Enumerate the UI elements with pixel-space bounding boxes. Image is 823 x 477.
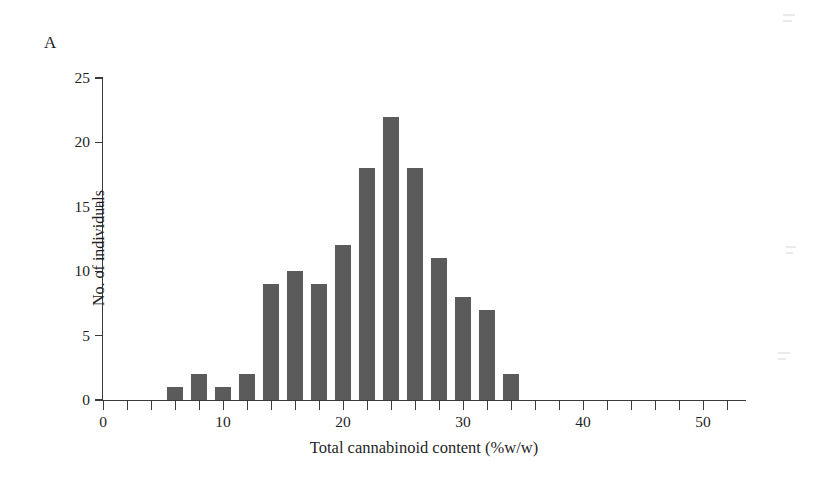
x-tick-label: 20: [323, 414, 363, 430]
x-tick-major: [583, 401, 584, 410]
x-tick-minor: [535, 401, 536, 410]
y-tick: [95, 399, 103, 400]
y-tick-label: 5: [50, 328, 90, 344]
histogram-bar: [407, 168, 423, 400]
scan-artifact: [786, 246, 796, 248]
x-tick-minor: [487, 401, 488, 410]
scan-artifact: [778, 352, 790, 354]
x-tick-label: 0: [83, 414, 123, 430]
y-tick-label: 20: [50, 134, 90, 150]
x-tick-label: 50: [683, 414, 723, 430]
x-tick-major: [223, 401, 224, 410]
histogram-bar: [383, 117, 399, 400]
x-tick-minor: [439, 401, 440, 410]
y-tick-label: 0: [50, 392, 90, 408]
x-tick-minor: [559, 401, 560, 410]
histogram-bar: [215, 387, 231, 400]
x-tick-minor: [127, 401, 128, 410]
histogram-bar: [167, 387, 183, 400]
histogram-bar: [503, 374, 519, 400]
x-tick-minor: [247, 401, 248, 410]
histogram-bar: [455, 297, 471, 400]
x-tick-minor: [679, 401, 680, 410]
x-tick-minor: [199, 401, 200, 410]
x-tick-major: [343, 401, 344, 410]
scan-artifact: [778, 358, 786, 360]
histogram-bar: [239, 374, 255, 400]
x-tick-minor: [727, 401, 728, 410]
histogram-bar: [191, 374, 207, 400]
x-tick-minor: [319, 401, 320, 410]
x-tick-minor: [295, 401, 296, 410]
histogram-bar: [311, 284, 327, 400]
x-tick-major: [463, 401, 464, 410]
panel-label: A: [44, 33, 56, 53]
x-tick-minor: [391, 401, 392, 410]
histogram-bar: [335, 245, 351, 400]
scan-artifact: [783, 20, 792, 22]
histogram-bar: [287, 271, 303, 400]
histogram-bar: [479, 310, 495, 400]
x-tick-minor: [271, 401, 272, 410]
figure-panel-a: A 0510152025 01020304050 No. of individu…: [0, 0, 823, 477]
x-tick-minor: [607, 401, 608, 410]
x-tick-minor: [151, 401, 152, 410]
x-tick-major: [703, 401, 704, 410]
y-tick-label: 10: [50, 263, 90, 279]
scan-artifact: [786, 252, 793, 254]
scan-artifact: [783, 14, 795, 16]
x-tick-minor: [511, 401, 512, 410]
x-axis-title: Total cannabinoid content (%w/w): [103, 438, 745, 458]
y-tick-label: 15: [50, 199, 90, 215]
x-tick-minor: [415, 401, 416, 410]
x-tick-label: 10: [203, 414, 243, 430]
x-tick-major: [103, 401, 104, 410]
histogram-bar: [359, 168, 375, 400]
y-tick: [95, 77, 103, 78]
x-tick-minor: [655, 401, 656, 410]
x-tick-minor: [631, 401, 632, 410]
x-tick-label: 40: [563, 414, 603, 430]
histogram-bar: [431, 258, 447, 400]
x-tick-minor: [175, 401, 176, 410]
y-axis-title: No. of individuals: [90, 118, 108, 378]
histogram-bar: [263, 284, 279, 400]
x-tick-label: 30: [443, 414, 483, 430]
x-tick-minor: [367, 401, 368, 410]
plot-area: No. of individuals: [103, 78, 745, 400]
y-tick-label: 25: [50, 70, 90, 86]
